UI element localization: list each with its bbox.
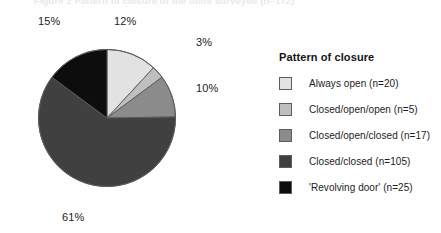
legend-item: 'Revolving door' (n=25) [279,180,439,194]
legend-rows: Always open (n=20)Closed/open/open (n=5)… [279,76,439,194]
pie-chart-svg [38,49,176,187]
legend-item-label: Closed/open/open (n=5) [309,104,418,115]
figure-panel: Figure 2 Pattern of closure of the units… [0,0,441,233]
legend-item-label: Closed/closed (n=105) [309,156,410,167]
legend-swatch [279,103,292,116]
legend-item: Closed/open/open (n=5) [279,102,439,116]
slice-label-closed-closed: 61% [62,211,84,223]
slice-label-closed-open-closed: 10% [196,82,218,94]
slice-label-closed-open-open: 3% [196,36,212,48]
legend-title: Pattern of closure [279,51,439,63]
legend: Pattern of closure Always open (n=20)Clo… [279,51,439,194]
legend-swatch [279,129,292,142]
legend-item-label: Always open (n=20) [309,78,399,89]
legend-item: Always open (n=20) [279,76,439,90]
legend-swatch [279,77,292,90]
legend-swatch [279,155,292,168]
legend-item: Closed/closed (n=105) [279,154,439,168]
cut-off-caption: Figure 2 Pattern of closure of the units… [34,0,414,6]
legend-swatch [279,181,292,194]
legend-item-label: 'Revolving door' (n=25) [309,182,413,193]
legend-item-label: Closed/open/closed (n=17) [309,130,430,141]
pie-chart [38,49,176,187]
slice-label-revolving-door: 15% [38,15,60,27]
slice-label-always-open: 12% [114,15,136,27]
legend-item: Closed/open/closed (n=17) [279,128,439,142]
